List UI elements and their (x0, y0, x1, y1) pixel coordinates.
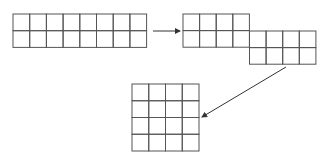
grid-cell (132, 101, 149, 118)
strip-2x8-grid (13, 14, 147, 47)
grid-cell (250, 48, 267, 65)
grid-cell (166, 118, 183, 135)
grid-cell (132, 118, 149, 135)
staggered-grid (183, 14, 316, 64)
arrow-2-icon (202, 67, 286, 117)
grid-cell (233, 31, 250, 48)
grid-cell (63, 31, 80, 48)
grid-cell (216, 14, 233, 31)
grid-cell (299, 48, 316, 65)
grid-cell (149, 118, 166, 135)
grid-cell (113, 14, 130, 31)
staggered-block-1 (183, 14, 249, 47)
grid-cell (266, 48, 283, 65)
grid-cell (132, 134, 149, 151)
rearrangement-diagram (0, 0, 329, 160)
grid-cell (13, 14, 30, 31)
grid-cell (46, 14, 63, 31)
grid-cell (97, 31, 114, 48)
grid-cell (233, 14, 250, 31)
grid-cell (182, 118, 199, 135)
grid-cell (200, 14, 217, 31)
grid-cell (149, 84, 166, 101)
grid-cell (182, 134, 199, 151)
grid-cell (30, 31, 47, 48)
grid-cell (200, 31, 217, 48)
grid-cell (149, 101, 166, 118)
grid-cell (182, 101, 199, 118)
grid-cell (46, 31, 63, 48)
grid-cell (183, 31, 200, 48)
grid-cell (80, 31, 97, 48)
grid-cell (166, 134, 183, 151)
grid-cell (266, 31, 283, 48)
grid-cell (149, 134, 166, 151)
grid-cell (63, 14, 80, 31)
grid-cell (80, 14, 97, 31)
grid-cell (299, 31, 316, 48)
grid-cell (166, 101, 183, 118)
grid-cell (250, 31, 267, 48)
grid-cell (113, 31, 130, 48)
grid-cell (283, 31, 300, 48)
grid-cell (216, 31, 233, 48)
grid-cell (132, 84, 149, 101)
grid-cell (283, 48, 300, 65)
square-4x4-grid (132, 84, 199, 151)
grid-cell (166, 84, 183, 101)
grid-cell (30, 14, 47, 31)
grid-cell (183, 14, 200, 31)
staggered-block-2 (250, 31, 316, 64)
grid-cell (182, 84, 199, 101)
grid-cell (97, 14, 114, 31)
grid-cell (130, 14, 147, 31)
grid-cell (130, 31, 147, 48)
grid-cell (13, 31, 30, 48)
